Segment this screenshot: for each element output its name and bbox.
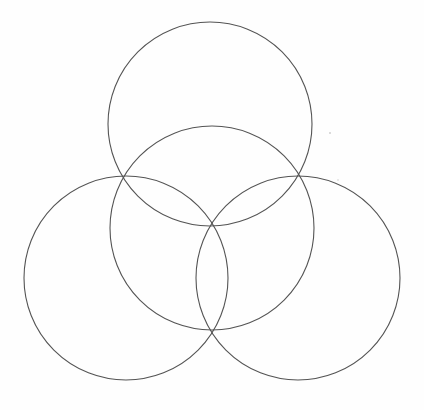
- circles-diagram-svg: Four overlapping circles rosette Hand-dr…: [0, 0, 424, 410]
- figure-canvas: Four overlapping circles rosette Hand-dr…: [0, 0, 424, 410]
- speck-upper-right-icon: [329, 132, 331, 134]
- speck-right-edge-icon: [337, 179, 339, 181]
- diagram-background: [0, 0, 424, 410]
